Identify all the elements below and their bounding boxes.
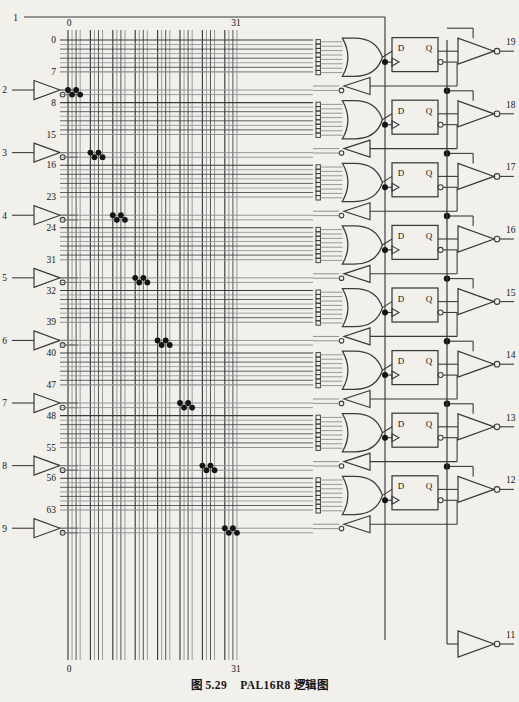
or-input-stub [316,482,320,486]
ff-q-label: Q [426,419,433,429]
output-enable-inverter [458,631,494,657]
clock-junction-dot [382,247,388,253]
input-buffer-pin-5 [34,268,60,287]
fuse-dot [73,87,79,93]
column-index-label-bottom-left: 0 [67,664,72,674]
fuse-dot [230,525,236,531]
pin-label-5: 5 [2,273,7,283]
or-input-stub [316,133,320,137]
or-input-stub [316,415,320,419]
ff-d-label: D [398,231,405,241]
ff-d-label: D [398,419,405,429]
or-input-stub [316,303,320,307]
ff-q-label: Q [426,356,433,366]
pin-label-11: 11 [506,630,515,640]
or-gate-1 [342,101,382,139]
or-input-stub [316,187,320,191]
or-input-stub [316,62,320,66]
clock-input-icon [392,183,399,191]
qbar-bubble-icon [438,60,443,65]
ff-d-label: D [398,106,405,116]
pin-label-3: 3 [2,148,7,158]
input-buffer-pin-9 [34,519,60,538]
feedback-buffer-5 [344,391,370,408]
fuse-dot [208,463,214,469]
or-input-stub [316,308,320,312]
qbar-bubble-icon [438,247,443,252]
feedback-buffer-3 [344,265,370,282]
or-input-stub [316,509,320,513]
qbar-bubble-icon [438,373,443,378]
clock-junction-dot [382,122,388,128]
or-input-stub [316,357,320,361]
or-input-stub [316,312,320,316]
ff-q-label: Q [426,43,433,53]
row-index-label: 7 [51,67,56,77]
feedback-buffer-6 [344,453,370,470]
or-to-d-wire [382,51,392,57]
or-input-stub [316,102,320,106]
or-to-d-wire [382,302,392,308]
qbar-bubble-icon [438,435,443,440]
feedback-buffer-1 [344,140,370,157]
inverting-bubble-icon [339,88,344,93]
qbar-bubble-icon [438,185,443,190]
or-input-stub [316,375,320,379]
or-to-d-wire [382,176,392,182]
or-input-stub [316,442,320,446]
or-to-d-wire [382,489,392,495]
clock-junction-dot [382,59,388,65]
or-input-stub [316,232,320,236]
pin-label-2: 2 [2,85,7,95]
or-input-stub [316,370,320,374]
ff-q-label: Q [426,294,433,304]
fuse-dot [118,212,124,218]
clock-input-icon [392,246,399,254]
input-buffer-pin-8 [34,456,60,475]
or-input-stub [316,178,320,182]
row-index-label: 16 [47,160,57,170]
clock-junction-dot [382,372,388,378]
input-buffer-pin-2 [34,81,60,100]
figure-root: 0781516232431323940474855566303103112345… [0,0,519,702]
row-index-label: 55 [47,443,57,453]
row-index-label: 32 [47,286,57,296]
figure-caption: 图 5.29 PAL16R8 逻辑图 [0,676,519,692]
or-input-stub [316,245,320,249]
or-input-stub [316,191,320,195]
pin-label-15: 15 [506,288,516,298]
feedback-buffer-0 [344,78,370,95]
inverting-bubble-icon [339,464,344,469]
row-index-label: 39 [47,317,57,327]
or-input-stub [316,53,320,57]
output-inverter-2 [458,163,494,189]
or-input-stub [316,129,320,133]
or-input-stub [316,120,320,124]
row-index-label: 40 [47,348,57,358]
row-index-label: 15 [47,130,57,140]
or-input-stub [316,379,320,383]
pin-label-18: 18 [506,100,516,110]
fuse-dot [226,530,232,536]
or-input-stub [316,40,320,44]
fuse-dot [163,338,169,344]
or-input-stub [316,169,320,173]
fuse-dot [110,212,116,218]
or-input-stub [316,227,320,231]
inverting-bubble-icon [339,276,344,281]
fuse-dot [167,342,173,348]
or-input-stub [316,487,320,491]
or-gate-2 [342,163,382,201]
clock-input-icon [392,434,399,442]
or-input-stub [316,294,320,298]
clock-junction-dot [382,497,388,503]
or-input-stub [316,366,320,370]
output-inverter-1 [458,101,494,127]
inverting-bubble-icon [339,213,344,218]
inverting-bubble-icon [339,339,344,344]
clock-input-icon [392,308,399,316]
row-index-label: 63 [47,505,57,515]
or-input-stub [316,165,320,169]
output-inverter-6 [458,414,494,440]
pin-label-6: 6 [2,336,7,346]
